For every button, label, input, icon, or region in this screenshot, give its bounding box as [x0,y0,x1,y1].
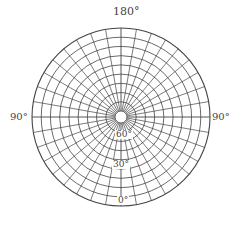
label-top-180: 180° [113,6,140,17]
spoke-line [127,118,209,132]
label-right-90: 90° [212,112,230,122]
label-ring-60: 60° [115,130,133,139]
ring-circle [115,111,127,123]
polar-net-grid [0,0,241,225]
spoke-line [33,118,115,132]
spoke-line [33,102,115,116]
label-ring-30: 30° [112,160,130,169]
spoke-line [122,29,136,111]
label-ring-0: 0° [117,196,129,205]
spoke-line [127,102,209,116]
spoke-line [106,29,120,111]
label-left-90: 90° [10,112,28,122]
